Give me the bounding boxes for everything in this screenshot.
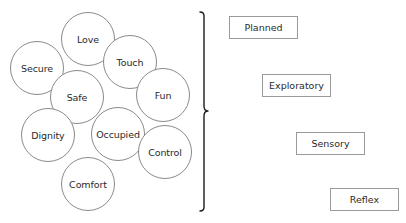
- need-circle-fun: Fun: [136, 68, 190, 122]
- curly-brace-icon: [196, 8, 216, 216]
- need-circle-dignity: Dignity: [21, 108, 75, 162]
- need-label: Secure: [21, 63, 53, 74]
- level-box-planned: Planned: [229, 16, 298, 39]
- need-label: Comfort: [69, 179, 107, 190]
- level-box-exploratory: Exploratory: [262, 74, 331, 97]
- level-label: Reflex: [350, 194, 379, 205]
- need-circle-control: Control: [138, 125, 192, 179]
- need-label: Love: [77, 34, 99, 45]
- level-box-sensory: Sensory: [296, 132, 365, 155]
- level-label: Planned: [244, 22, 282, 33]
- need-label: Dignity: [31, 130, 64, 141]
- level-label: Exploratory: [269, 80, 324, 91]
- need-label: Occupied: [96, 129, 140, 140]
- need-label: Touch: [117, 57, 144, 68]
- level-box-reflex: Reflex: [330, 188, 399, 211]
- need-circle-occupied: Occupied: [91, 107, 145, 161]
- need-label: Fun: [155, 90, 172, 101]
- need-label: Control: [148, 147, 182, 158]
- need-circle-comfort: Comfort: [61, 157, 115, 211]
- level-label: Sensory: [311, 138, 349, 149]
- need-label: Safe: [67, 92, 88, 103]
